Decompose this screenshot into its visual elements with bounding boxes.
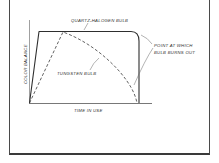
quartz-halogen-label: QUARTZ-HALOGEN BULB [71, 18, 128, 23]
burnout-leader-line-2 [134, 48, 153, 85]
tungsten-curve [30, 32, 138, 103]
tungsten-label: TUNGSTEN BULB [57, 71, 96, 76]
quartz-leader-line [84, 23, 88, 30]
tungsten-leader-line [90, 58, 99, 70]
y-axis-label: COLOR BALANCE [23, 44, 28, 84]
x-axis-label: TIME IN USE [74, 108, 103, 113]
color-balance-chart: QUARTZ-HALOGEN BULB POINT AT WHICH BULB … [0, 0, 219, 163]
burnout-label-line1: POINT AT WHICH [154, 43, 193, 48]
burnout-leader-line-1 [141, 35, 152, 44]
burnout-label-line2: BULB BURNS OUT [154, 50, 195, 55]
